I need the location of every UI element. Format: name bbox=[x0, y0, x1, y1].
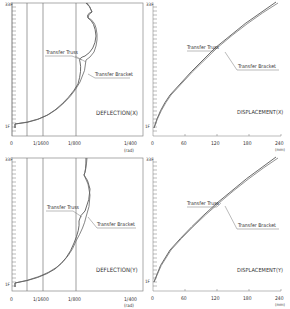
transfer-truss-label: Transfer Truss bbox=[46, 204, 80, 210]
x-tick-0: 0 bbox=[10, 140, 13, 146]
x-tick-120: 120 bbox=[211, 140, 220, 146]
chart-title: DISPLACEMENT(X) bbox=[237, 109, 283, 115]
x-unit: (rad) bbox=[124, 303, 134, 308]
x-tick-800: 1/800 bbox=[68, 296, 81, 302]
x-tick-400: 1/400 bbox=[124, 296, 137, 302]
y-axis-ticks bbox=[12, 3, 16, 136]
chart-title: DISPLACEMENT(Y) bbox=[237, 267, 283, 273]
x-tick-120: 120 bbox=[211, 295, 220, 301]
transfer-truss-label: Transfer Truss bbox=[186, 44, 220, 50]
y-axis-ticks bbox=[12, 162, 16, 286]
transfer-bracket-curve bbox=[154, 158, 278, 282]
transfer-bracket-label: Transfer Bracket bbox=[94, 71, 133, 77]
x-unit: (mm) bbox=[275, 147, 285, 152]
displacement-x-chart: Transfer Truss Transfer Bracket DISPLACE… bbox=[145, 0, 290, 155]
transfer-bracket-label: Transfer Bracket bbox=[237, 222, 276, 228]
x-tick-60: 60 bbox=[181, 295, 187, 301]
x-tick-1600: 1/1600 bbox=[33, 296, 49, 302]
x-tick-0: 0 bbox=[151, 140, 154, 146]
chart-title: DEFLECTION(Y) bbox=[96, 266, 138, 273]
x-tick-60: 60 bbox=[181, 140, 187, 146]
transfer-truss-curve bbox=[15, 158, 90, 287]
transfer-truss-label: Transfer Truss bbox=[186, 200, 220, 206]
transfer-bracket-label: Transfer Bracket bbox=[237, 63, 276, 69]
y-bottom-label: 1F bbox=[145, 279, 151, 284]
y-bottom-label: 1F bbox=[5, 282, 11, 287]
transfer-bracket-label: Transfer Bracket bbox=[96, 221, 135, 227]
x-tick-240: 240 bbox=[275, 295, 284, 301]
displacement-y-chart: Transfer Truss Transfer Bracket DISPLACE… bbox=[145, 155, 290, 309]
x-tick-0: 0 bbox=[10, 296, 13, 302]
y-axis-ticks bbox=[153, 3, 281, 136]
transfer-truss-label: Transfer Truss bbox=[45, 49, 79, 55]
x-tick-180: 180 bbox=[243, 295, 252, 301]
x-tick-1600: 1/1600 bbox=[33, 140, 49, 146]
plot-frame bbox=[12, 3, 143, 136]
x-unit: (rad) bbox=[124, 148, 134, 153]
y-top-label: 33F bbox=[5, 157, 13, 162]
x-unit: (mm) bbox=[275, 302, 285, 307]
y-top-label: 33F bbox=[146, 157, 154, 162]
y-bottom-label: 1F bbox=[145, 124, 151, 129]
y-top-label: 33F bbox=[5, 2, 13, 7]
x-tick-0: 0 bbox=[151, 295, 154, 301]
y-bottom-label: 1F bbox=[5, 124, 11, 129]
y-top-label: 33F bbox=[146, 2, 154, 7]
x-tick-180: 180 bbox=[243, 140, 252, 146]
chart-title: DEFLECTION(X) bbox=[96, 109, 138, 116]
deflection-y-chart: Transfer Truss Transfer Bracket DEFLECTI… bbox=[0, 155, 145, 309]
x-tick-240: 240 bbox=[275, 140, 284, 146]
x-tick-400: 1/400 bbox=[124, 140, 137, 146]
transfer-truss-curve bbox=[154, 157, 276, 282]
deflection-x-chart: Transfer Truss Transfer Bracket DEFLECTI… bbox=[0, 0, 145, 155]
x-tick-800: 1/800 bbox=[68, 140, 81, 146]
vertical-gridlines bbox=[27, 3, 76, 136]
